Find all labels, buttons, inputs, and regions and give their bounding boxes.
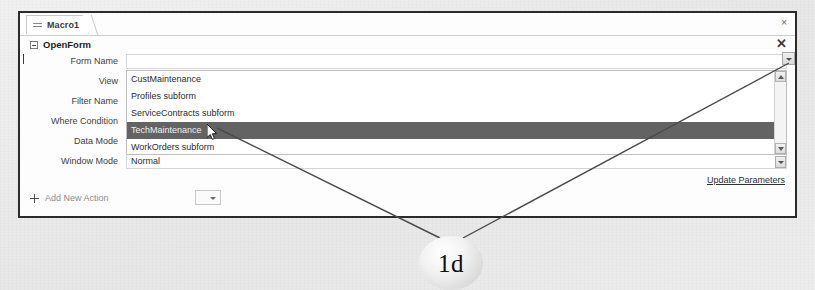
openform-close-icon[interactable]: ✕ bbox=[776, 37, 787, 50]
openform-header[interactable]: OpenForm bbox=[30, 39, 91, 50]
openform-title: OpenForm bbox=[43, 39, 91, 50]
text-caret bbox=[23, 54, 24, 64]
argument-label-filter-name: Filter Name bbox=[20, 92, 118, 111]
plus-icon bbox=[30, 194, 39, 203]
macro-lines-icon bbox=[33, 21, 42, 30]
argument-label-data-mode: Data Mode bbox=[20, 132, 118, 151]
scroll-down-arrow-icon[interactable] bbox=[775, 143, 786, 154]
add-new-action-label: Add New Action bbox=[45, 193, 109, 203]
list-item[interactable]: CustMaintenance bbox=[127, 71, 786, 88]
macro-designer-window: Macro1 × OpenForm ✕ Form Name View Filte… bbox=[18, 11, 797, 218]
add-new-action-combo[interactable] bbox=[195, 190, 221, 205]
form-name-dropdown-list[interactable]: CustMaintenance Profiles subform Service… bbox=[126, 70, 787, 155]
list-item[interactable]: Profiles subform bbox=[127, 88, 786, 105]
argument-label-where-condition: Where Condition bbox=[20, 112, 118, 131]
scroll-up-arrow-icon[interactable] bbox=[775, 71, 786, 82]
argument-label-window-mode: Window Mode bbox=[20, 152, 118, 171]
list-item[interactable]: ServiceContracts subform bbox=[127, 105, 786, 122]
tab-macro1[interactable]: Macro1 bbox=[26, 15, 89, 34]
dropdown-scrollbar[interactable] bbox=[774, 71, 786, 154]
list-item[interactable]: WorkOrders subform bbox=[127, 139, 786, 156]
form-name-input[interactable] bbox=[126, 54, 787, 69]
collapse-minus-icon[interactable] bbox=[30, 41, 38, 49]
argument-row-form-name: Form Name bbox=[20, 52, 795, 71]
openform-action-block: OpenForm ✕ Form Name View Filter Name Wh… bbox=[20, 35, 795, 216]
argument-label-view: View bbox=[20, 72, 118, 91]
callout-bubble: 1d bbox=[419, 236, 483, 290]
chevron-down-icon[interactable] bbox=[775, 156, 786, 168]
window-mode-input[interactable]: Normal bbox=[126, 154, 787, 169]
tab-skew-edge bbox=[83, 15, 98, 35]
list-item-selected[interactable]: TechMaintenance bbox=[127, 122, 786, 139]
close-icon[interactable]: × bbox=[781, 17, 787, 28]
tab-macro1-label: Macro1 bbox=[47, 20, 79, 30]
update-parameters-link[interactable]: Update Parameters bbox=[707, 175, 785, 185]
callout-label: 1d bbox=[438, 251, 464, 276]
form-name-dropdown-button[interactable] bbox=[782, 52, 795, 65]
argument-label-form-name: Form Name bbox=[20, 52, 118, 71]
add-new-action-row[interactable]: Add New Action bbox=[30, 193, 109, 203]
tab-strip: Macro1 × bbox=[20, 13, 795, 36]
